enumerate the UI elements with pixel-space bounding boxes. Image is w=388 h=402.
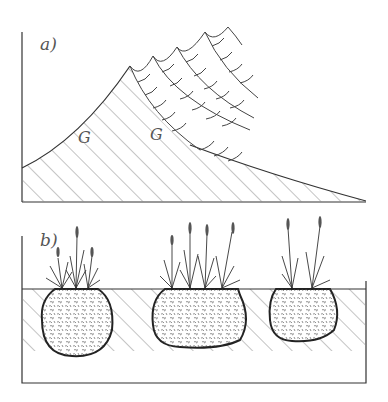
figure-canvas <box>0 0 388 402</box>
panel-a-annotation-g2: G <box>150 125 163 144</box>
tussock-3-texture <box>270 289 338 341</box>
panel-b-label: b) <box>40 230 58 250</box>
tussock-1-texture <box>42 289 113 356</box>
seed-heads <box>56 216 321 257</box>
grass-tufts <box>46 226 330 288</box>
panel-a-substrate <box>22 66 366 202</box>
panel-a-label: a) <box>40 34 57 54</box>
panel-b <box>22 216 366 383</box>
panel-a-annotation-g1: G <box>78 128 91 147</box>
tussock-2-texture <box>153 289 247 348</box>
panel-a <box>22 27 366 202</box>
